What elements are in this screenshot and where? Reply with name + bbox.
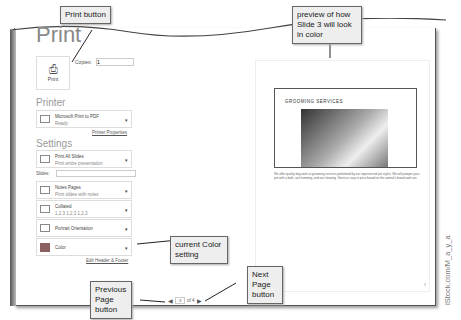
callout-arrows (0, 0, 461, 320)
callout-print-button: Print button (60, 6, 111, 24)
callout-next-page: Next Page button (247, 266, 283, 304)
photo-credit: iStock.com/M_a_y_a (443, 235, 452, 305)
callout-color: current Color setting (170, 236, 228, 264)
callout-previous-page: Previous Page button (90, 281, 132, 319)
callout-preview: preview of how Slide 3 will look in colo… (292, 6, 362, 44)
